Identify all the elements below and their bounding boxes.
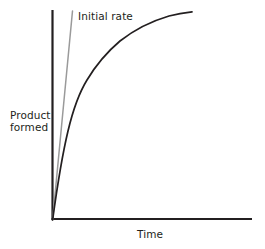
chart-figure: Product formed Time Initial rate (0, 0, 265, 249)
product-formation-curve (53, 12, 192, 220)
x-axis-label: Time (137, 229, 163, 241)
y-axis-label: Product formed (10, 110, 51, 133)
initial-rate-annotation-label: Initial rate (78, 10, 133, 22)
initial-rate-line (53, 11, 73, 220)
